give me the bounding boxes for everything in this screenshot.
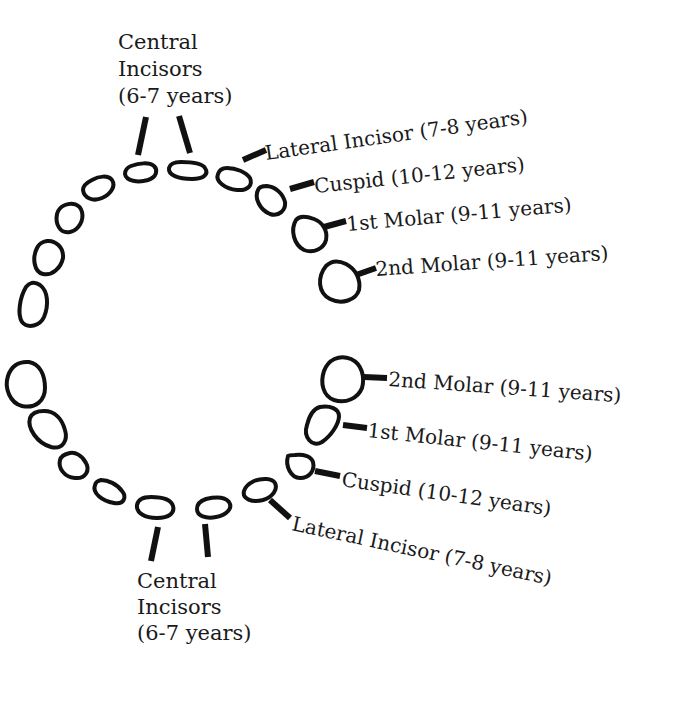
upper-arch: Central Incisors (6-7 years) Lateral Inc… <box>19 30 609 326</box>
leader-upper-second-molar <box>356 268 376 275</box>
lower-arch: 2nd Molar (9-11 years) 1st Molar (9-11 y… <box>7 357 622 645</box>
leader-lower-central-right <box>205 524 208 557</box>
lower-central-line3: (6-7 years) <box>137 621 252 645</box>
upper-central-incisors-label: Central Incisors (6-7 years) <box>118 30 233 108</box>
leader-lower-cuspid <box>315 471 340 476</box>
lower-first-molar-label: 1st Molar (9-11 years) <box>366 418 593 465</box>
tooth-upper-second-molar <box>320 262 359 302</box>
lower-second-molar-label: 2nd Molar (9-11 years) <box>388 367 622 407</box>
tooth-lower-left-2nd-molar <box>7 362 45 407</box>
tooth-lower-left-lateral-incisor <box>94 480 124 503</box>
leader-lower-central-left <box>151 527 158 561</box>
tooth-upper-central-incisor-left <box>125 163 156 181</box>
tooth-lower-left-cuspid <box>60 453 88 478</box>
leader-lower-second-molar <box>364 377 387 378</box>
tooth-lower-left-1st-molar <box>29 411 65 448</box>
lower-central-line1: Central <box>137 569 217 593</box>
tooth-upper-lateral-incisor <box>217 168 250 190</box>
tooth-upper-left-lateral-incisor <box>83 177 113 200</box>
tooth-upper-cuspid <box>257 186 285 215</box>
lower-lateral-incisor-label: Lateral Incisor (7-8 years) <box>290 511 554 590</box>
upper-central-line3: (6-7 years) <box>118 84 233 108</box>
upper-central-line1: Central <box>118 30 198 54</box>
upper-second-molar-label: 2nd Molar (9-11 years) <box>375 241 609 281</box>
lower-cuspid-label: Cuspid (10-12 years) <box>340 467 553 520</box>
leader-upper-central-left <box>138 117 146 155</box>
lower-central-line2: Incisors <box>137 595 222 619</box>
leader-upper-cuspid <box>290 182 314 189</box>
tooth-upper-left-1st-molar <box>34 241 63 274</box>
tooth-lower-cuspid <box>287 455 313 478</box>
lower-central-incisors-label: Central Incisors (6-7 years) <box>137 569 252 645</box>
tooth-upper-central-incisor-right <box>169 162 206 179</box>
tooth-lower-second-molar <box>322 357 363 401</box>
upper-central-line2: Incisors <box>118 57 203 81</box>
leader-upper-lateral-incisor <box>243 150 266 160</box>
tooth-upper-left-cuspid <box>57 204 83 233</box>
dental-arch-diagram: Central Incisors (6-7 years) Lateral Inc… <box>0 0 693 705</box>
upper-cuspid-label: Cuspid (10-12 years) <box>313 152 526 198</box>
upper-first-molar-label: 1st Molar (9-11 years) <box>345 192 572 236</box>
tooth-lower-first-molar <box>306 406 339 443</box>
leader-lower-lateral-incisor <box>270 500 290 518</box>
leader-upper-central-right <box>179 116 190 153</box>
tooth-lower-lateral-incisor <box>244 479 276 501</box>
tooth-upper-first-molar <box>293 217 326 251</box>
tooth-upper-left-2nd-molar <box>19 283 47 326</box>
tooth-lower-central-incisor-left <box>137 497 173 518</box>
leader-upper-first-molar <box>324 221 346 227</box>
tooth-lower-central-incisor-right <box>197 498 230 518</box>
leader-lower-first-molar <box>343 425 367 428</box>
